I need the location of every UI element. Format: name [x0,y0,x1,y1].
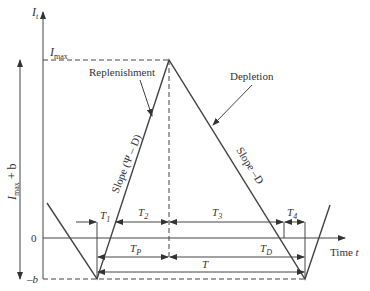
replenishment-pointer [140,80,152,116]
replenishment-label: Replenishment [89,66,155,78]
t-label: T [202,258,209,270]
zero-label: 0 [31,232,37,244]
t1-label: T1 [100,209,110,224]
inventory-diagram: It Imax Imax + b 0 –b Time t Replenishme… [0,0,370,291]
inventory-curve [47,60,330,279]
time-axis-label: Time t [330,246,360,258]
t3-label: T3 [212,206,222,221]
t2-label: T2 [138,206,148,221]
depletion-pointer [213,85,252,125]
neg-b-label: –b [26,273,39,285]
slope-down-label: Slope –D [234,145,266,186]
slope-up-label: Slope (Ψ – D) [109,132,144,195]
range-label: Imax + b [5,163,21,201]
tp-label: TP [130,242,141,257]
y-axis-label: It [31,5,39,21]
t4-label: T4 [287,206,297,221]
td-label: TD [260,242,272,257]
depletion-label: Depletion [230,70,274,82]
imax-label: Imax [49,45,68,61]
diagram-canvas: It Imax Imax + b 0 –b Time t Replenishme… [0,0,370,291]
